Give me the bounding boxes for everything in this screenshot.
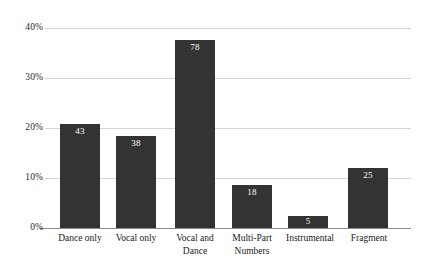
- x-axis-labels: Dance only Vocal only Vocal and Dance Mu…: [0, 232, 422, 271]
- bars-layer: 43 38 78 18 5 25: [0, 0, 422, 271]
- bar-chart: 40% 30% 20% 10% 0% 43 38 78 18 5 25 Danc…: [0, 0, 422, 271]
- bar-value-label: 18: [232, 188, 272, 197]
- bar-instrumental[interactable]: 5: [288, 216, 328, 228]
- bar-value-label: 43: [60, 127, 100, 136]
- bar-fragment[interactable]: 25: [348, 168, 388, 229]
- bar-vocal-only[interactable]: 38: [116, 136, 156, 228]
- xtick-label-vocal-only: Vocal only: [106, 232, 166, 245]
- xtick-label-instrumental: Instrumental: [280, 232, 340, 245]
- bar-dance-only[interactable]: 43: [60, 124, 100, 228]
- bar-value-label: 38: [116, 139, 156, 148]
- bar-value-label: 5: [288, 217, 328, 226]
- xtick-label-fragment: Fragment: [340, 232, 398, 245]
- bar-vocal-and-dance[interactable]: 78: [175, 40, 215, 229]
- bar-value-label: 78: [175, 43, 215, 52]
- xtick-label-multi-part-numbers: Multi-Part Numbers: [224, 232, 280, 257]
- bar-multi-part-numbers[interactable]: 18: [232, 185, 272, 229]
- bar-value-label: 25: [348, 171, 388, 180]
- xtick-label-dance-only: Dance only: [48, 232, 112, 245]
- xtick-label-vocal-and-dance: Vocal and Dance: [166, 232, 224, 257]
